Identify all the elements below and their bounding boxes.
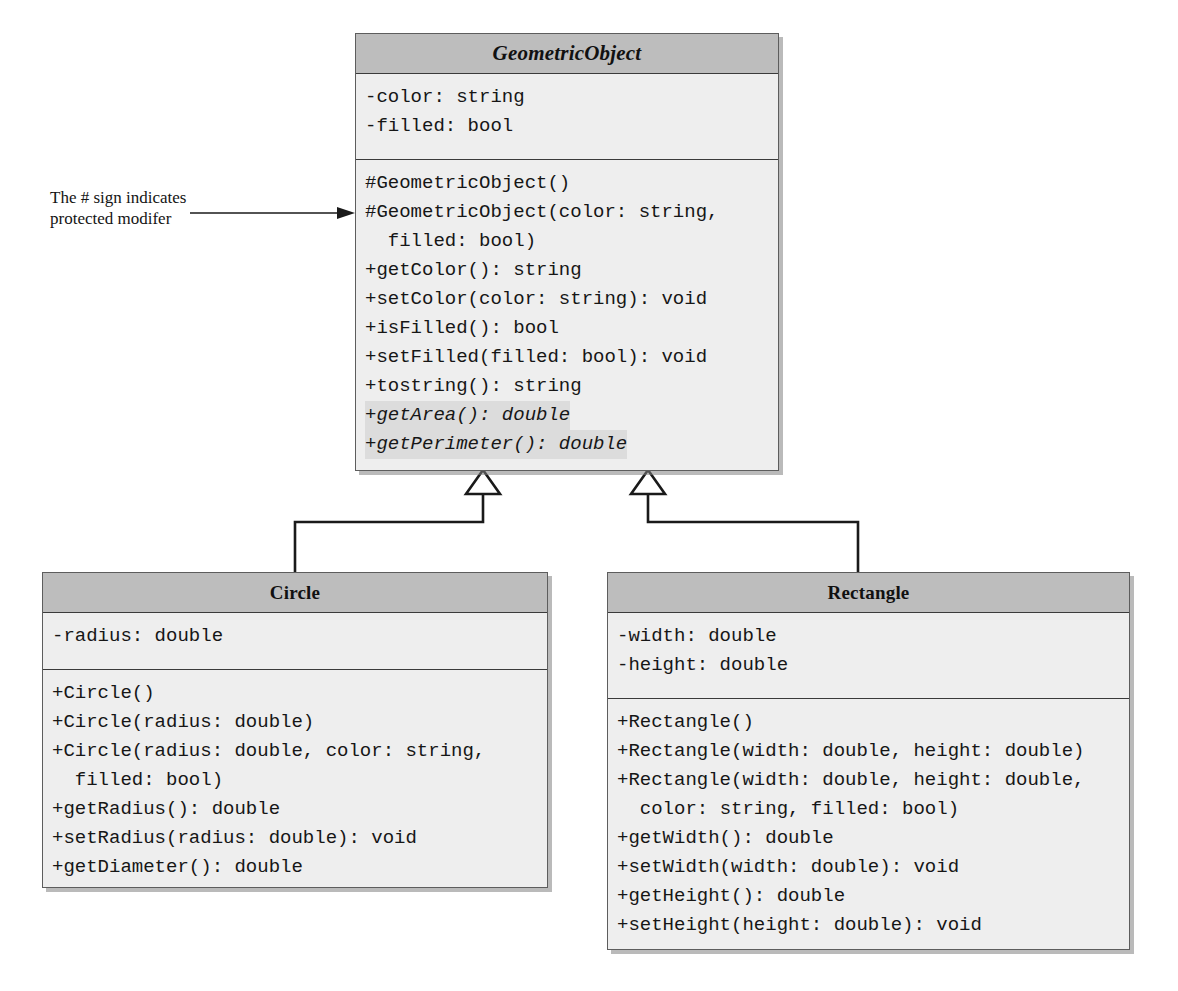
class-box-geometric-object[interactable]: GeometricObject -color: string -filled: … xyxy=(355,33,779,471)
class-box-circle[interactable]: Circle -radius: double +Circle() +Circle… xyxy=(42,572,548,888)
method-item: #GeometricObject(color: string, filled: … xyxy=(365,198,778,256)
annotation-line-2: protected modifer xyxy=(50,209,230,230)
class-title-geometric-object: GeometricObject xyxy=(356,34,778,74)
methods-section-geometric-object: #GeometricObject() #GeometricObject(colo… xyxy=(356,159,778,469)
method-item: +setColor(color: string): void xyxy=(365,285,778,314)
class-title-circle: Circle xyxy=(43,573,547,613)
attribute-item: -height: double xyxy=(617,651,1129,680)
method-item: +setRadius(radius: double): void xyxy=(52,824,547,853)
inheritance-arrow-rectangle xyxy=(631,470,858,572)
method-item: +Rectangle(width: double, height: double… xyxy=(617,737,1129,766)
class-title-rectangle: Rectangle xyxy=(608,573,1129,613)
method-item: #GeometricObject() xyxy=(365,169,778,198)
annotation-line-1: The # sign indicates xyxy=(50,188,230,209)
method-item: +getWidth(): double xyxy=(617,824,1129,853)
class-box-rectangle[interactable]: Rectangle -width: double -height: double… xyxy=(607,572,1130,950)
method-item-abstract: +getArea(): double xyxy=(365,401,570,430)
method-item: +Circle() xyxy=(52,679,547,708)
method-item: +Circle(radius: double, color: string, f… xyxy=(52,737,547,795)
attributes-section-geometric-object: -color: string -filled: bool xyxy=(356,74,778,159)
attribute-item: -filled: bool xyxy=(365,112,778,141)
method-item: +Rectangle() xyxy=(617,708,1129,737)
method-item: +setWidth(width: double): void xyxy=(617,853,1129,882)
annotation-protected-modifier: The # sign indicates protected modifer xyxy=(50,188,230,229)
method-item-abstract: +getPerimeter(): double xyxy=(365,430,627,459)
method-item: +setHeight(height: double): void xyxy=(617,911,1129,940)
inheritance-arrow-circle xyxy=(295,470,500,572)
method-item: +setFilled(filled: bool): void xyxy=(365,343,778,372)
uml-class-diagram: The # sign indicates protected modifer G… xyxy=(0,0,1178,991)
attribute-item: -width: double xyxy=(617,622,1129,651)
method-item: +Circle(radius: double) xyxy=(52,708,547,737)
method-item: +getRadius(): double xyxy=(52,795,547,824)
methods-section-circle: +Circle() +Circle(radius: double) +Circl… xyxy=(43,669,547,892)
methods-section-rectangle: +Rectangle() +Rectangle(width: double, h… xyxy=(608,698,1129,950)
attribute-item: -color: string xyxy=(365,83,778,112)
attributes-section-rectangle: -width: double -height: double xyxy=(608,613,1129,698)
method-item: +getColor(): string xyxy=(365,256,778,285)
attributes-section-circle: -radius: double xyxy=(43,613,547,669)
method-item: +isFilled(): bool xyxy=(365,314,778,343)
method-item: +tostring(): string xyxy=(365,372,778,401)
attribute-item: -radius: double xyxy=(52,622,547,651)
method-item: +getHeight(): double xyxy=(617,882,1129,911)
method-item: +Rectangle(width: double, height: double… xyxy=(617,766,1129,824)
method-item: +getDiameter(): double xyxy=(52,853,547,882)
